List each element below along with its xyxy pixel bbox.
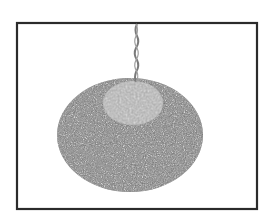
seed-ball [57,78,203,192]
photo [0,0,274,216]
